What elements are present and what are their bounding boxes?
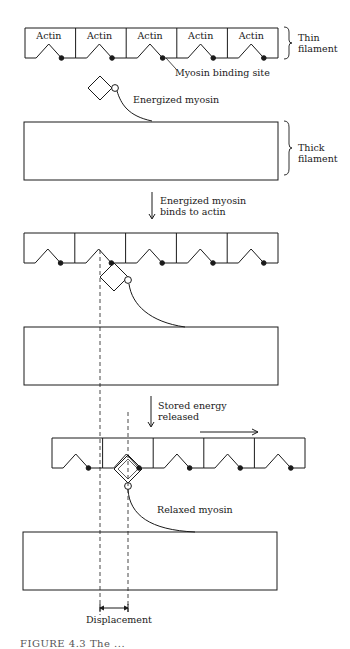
actin-label: Actin xyxy=(138,30,163,41)
thick-filament-label-line2: filament xyxy=(298,153,338,164)
down-arrow-1 xyxy=(149,192,155,219)
myosin-binding-site-dot xyxy=(160,56,165,61)
relaxed-myosin-head xyxy=(114,455,195,532)
displacement-bracket xyxy=(100,604,128,612)
thin-filament-label-line1: Thin xyxy=(298,32,338,43)
thick-filament-label: Thick filament xyxy=(298,142,338,164)
myosin-binding-site-dot xyxy=(211,56,216,61)
thick-filament-3 xyxy=(23,532,277,590)
myosin-binding-site-dot xyxy=(86,466,91,471)
movement-arrow-right xyxy=(200,429,258,435)
thin-filament-3 xyxy=(52,438,305,470)
figure-caption-partial: FIGURE 4.3 The ... xyxy=(20,638,125,649)
bound-energized-myosin xyxy=(100,263,185,327)
thick-filament-1 xyxy=(24,122,278,180)
thin-filament-brace xyxy=(284,27,292,59)
relaxed-myosin-label: Relaxed myosin xyxy=(157,504,233,515)
step1-label-line2: binds to actin xyxy=(160,206,246,217)
step1-label-line1: Energized myosin xyxy=(160,195,246,206)
actin-label: Actin xyxy=(188,30,213,41)
thin-filament-label-line2: filament xyxy=(298,43,338,54)
thin-filament-2 xyxy=(24,233,278,265)
thick-filament-label-line1: Thick xyxy=(298,142,338,153)
step1-label: Energized myosin binds to actin xyxy=(160,195,246,217)
thin-filament-label: Thin filament xyxy=(298,32,338,54)
myosin-binding-site-dot xyxy=(187,466,192,471)
myosin-binding-site-dot xyxy=(211,261,216,266)
energized-myosin-label: Energized myosin xyxy=(133,94,219,105)
actin-label: Actin xyxy=(239,30,264,41)
myosin-binding-site-dot xyxy=(289,466,294,471)
actin-label: Actin xyxy=(36,30,61,41)
myosin-binding-site-dot xyxy=(261,261,266,266)
actin-label: Actin xyxy=(87,30,112,41)
myosin-binding-site-dot xyxy=(262,56,267,61)
myosin-binding-site-dot xyxy=(58,261,63,266)
myosin-binding-site-dot xyxy=(238,466,243,471)
step2-label-line2: released xyxy=(158,411,227,422)
myosin-binding-site-dot xyxy=(110,56,115,61)
myosin-binding-site-dot xyxy=(160,261,165,266)
displacement-label: Displacement xyxy=(86,614,152,625)
step2-label-line1: Stored energy xyxy=(158,400,227,411)
thick-filament-2 xyxy=(24,327,278,385)
step2-label: Stored energy released xyxy=(158,400,227,422)
binding-site-label: Myosin binding site xyxy=(175,67,270,78)
thick-filament-brace xyxy=(284,121,292,175)
down-arrow-2 xyxy=(148,396,154,427)
myosin-binding-site-dot xyxy=(59,56,64,61)
